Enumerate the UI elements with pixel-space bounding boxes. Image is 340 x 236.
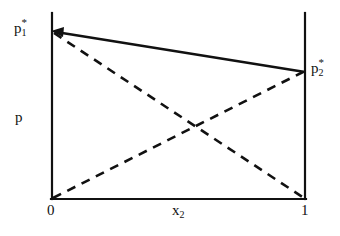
dashed-descending-line — [54, 33, 304, 198]
economics-price-quantity-figure: p1* p2* p 0 1 x2 — [0, 0, 340, 236]
p2-star-base: p — [311, 60, 319, 76]
p1-star-superscript: * — [22, 16, 28, 28]
x-axis-label-base: x — [172, 202, 180, 218]
y-axis-label: p — [15, 110, 23, 125]
x-tick-label-right: 1 — [301, 203, 309, 218]
p1-star-base: p — [14, 20, 22, 36]
p2-star-superscript: * — [319, 56, 325, 68]
x-axis-label-subscript: 2 — [180, 209, 185, 220]
x-tick-label-left: 0 — [47, 203, 55, 218]
x-axis-label: x2 — [172, 203, 185, 218]
dashed-ascending-line — [53, 72, 303, 198]
plot-canvas — [0, 0, 340, 236]
solid-equilibrium-line — [56, 32, 305, 72]
p1-star-subscript: 1 — [22, 27, 27, 38]
p2-star-subscript: 2 — [319, 67, 324, 78]
p1-star-label: p1* — [14, 21, 32, 36]
p2-star-label: p2* — [311, 61, 329, 76]
